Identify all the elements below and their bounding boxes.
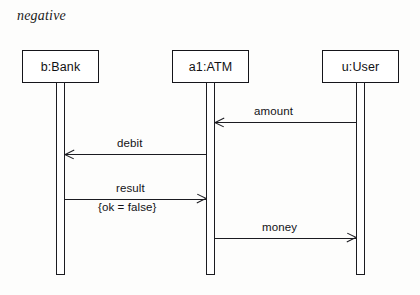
message-label-debit: debit <box>117 137 142 149</box>
message-line-debit[interactable] <box>65 154 206 155</box>
activation-bar-user <box>356 82 365 275</box>
activation-bar-bank <box>56 82 65 275</box>
message-line-amount[interactable] <box>215 122 356 123</box>
message-label-result: result <box>116 182 145 194</box>
lifeline-label-bank: b:Bank <box>41 60 81 74</box>
lifeline-box-atm[interactable]: a1:ATM <box>172 50 249 83</box>
message-label-amount: amount <box>254 105 293 117</box>
lifeline-label-user: u:User <box>342 60 379 74</box>
sequence-diagram-canvas: negative b:Bank a1:ATM u:User amount deb… <box>0 0 420 295</box>
message-constraint-result: {ok = false} <box>98 201 156 213</box>
fragment-label: negative <box>17 8 66 24</box>
activation-bar-atm <box>206 82 215 275</box>
lifeline-box-bank[interactable]: b:Bank <box>22 50 99 83</box>
message-line-money[interactable] <box>215 238 356 239</box>
message-label-money: money <box>262 221 297 233</box>
message-line-result[interactable] <box>65 199 206 200</box>
lifeline-label-atm: a1:ATM <box>189 60 232 74</box>
lifeline-box-user[interactable]: u:User <box>322 50 399 83</box>
